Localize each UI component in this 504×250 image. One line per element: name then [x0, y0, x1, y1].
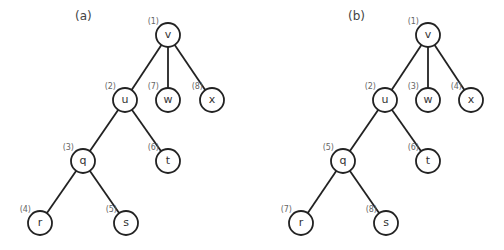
tree-traversal-diagram: (a) v(1)u(2)w(7)x(8)q(3)t(6)r(4)s(5) (b)… — [0, 0, 504, 250]
node-label: w — [424, 93, 433, 106]
visit-order-label: (6) — [148, 143, 159, 152]
tree-node-v: v(1) — [148, 17, 180, 47]
visit-order-label: (4) — [451, 82, 462, 91]
tree-node-r: r(4) — [20, 205, 52, 235]
visit-order-label: (2) — [105, 82, 116, 91]
tree-node-u: u(2) — [365, 82, 397, 112]
node-label: t — [166, 154, 171, 167]
visit-order-label: (8) — [192, 82, 203, 91]
tree-node-w: w(3) — [408, 82, 440, 112]
tree-node-s: s(5) — [106, 205, 138, 235]
node-label: w — [164, 93, 173, 106]
visit-order-label: (1) — [148, 17, 159, 26]
visit-order-label: (1) — [408, 17, 419, 26]
node-label: x — [468, 93, 475, 106]
node-label: s — [123, 216, 129, 229]
tree-node-x: x(8) — [192, 82, 224, 112]
node-label: u — [382, 93, 389, 106]
visit-order-label: (3) — [408, 82, 419, 91]
tree-node-w: w(7) — [148, 82, 180, 112]
node-label: r — [299, 216, 304, 229]
visit-order-label: (6) — [408, 143, 419, 152]
node-label: s — [383, 216, 389, 229]
node-label: t — [426, 154, 431, 167]
node-label: q — [340, 154, 347, 167]
panel-a-nodes: v(1)u(2)w(7)x(8)q(3)t(6)r(4)s(5) — [20, 17, 224, 235]
tree-node-s: s(8) — [366, 205, 398, 235]
node-label: r — [38, 216, 43, 229]
tree-node-q: q(5) — [323, 143, 355, 173]
panel-b-edges — [301, 35, 471, 223]
visit-order-label: (5) — [106, 205, 117, 214]
node-label: u — [122, 93, 129, 106]
visit-order-label: (4) — [20, 205, 31, 214]
node-label: v — [165, 28, 172, 41]
node-label: x — [209, 93, 216, 106]
tree-node-u: u(2) — [105, 82, 137, 112]
panel-b-nodes: v(1)u(2)w(3)x(4)q(5)t(6)r(7)s(8) — [281, 17, 483, 235]
visit-order-label: (7) — [281, 205, 292, 214]
tree-node-t: t(6) — [408, 143, 440, 173]
panel-b-label: (b) — [348, 9, 365, 23]
tree-node-q: q(3) — [63, 143, 95, 173]
visit-order-label: (7) — [148, 82, 159, 91]
visit-order-label: (3) — [63, 143, 74, 152]
node-label: v — [425, 28, 432, 41]
visit-order-label: (5) — [323, 143, 334, 152]
visit-order-label: (2) — [365, 82, 376, 91]
tree-node-r: r(7) — [281, 205, 313, 235]
panel-a-label: (a) — [75, 9, 92, 23]
tree-node-x: x(4) — [451, 82, 483, 112]
panel-b-bfs-tree: (b) v(1)u(2)w(3)x(4)q(5)t(6)r(7)s(8) — [281, 9, 483, 235]
panel-a-dfs-tree: (a) v(1)u(2)w(7)x(8)q(3)t(6)r(4)s(5) — [20, 9, 224, 235]
visit-order-label: (8) — [366, 205, 377, 214]
tree-node-v: v(1) — [408, 17, 440, 47]
tree-node-t: t(6) — [148, 143, 180, 173]
panel-a-edges — [40, 35, 212, 223]
node-label: q — [80, 154, 87, 167]
